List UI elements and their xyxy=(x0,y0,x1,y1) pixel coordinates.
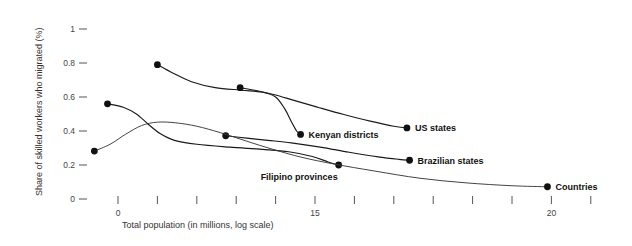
y-tick-label: 1 xyxy=(70,24,75,34)
x-tick-label: 0 xyxy=(116,208,121,218)
series-end-marker xyxy=(297,131,304,138)
series-label-filipino-provinces: Filipino provinces xyxy=(261,172,338,182)
x-tick-label: 20 xyxy=(547,208,557,218)
x-axis-title: Total population (in millions, log scale… xyxy=(122,220,274,230)
series-line xyxy=(240,88,407,128)
series-us-states xyxy=(237,84,411,131)
y-axis-title: Share of skilled workers who migrated (%… xyxy=(34,27,44,196)
series-layer xyxy=(91,61,551,190)
series-label-kenyan-districts: Kenyan districts xyxy=(309,130,379,140)
y-tick-label: 0.6 xyxy=(63,92,75,102)
series-line xyxy=(157,65,300,135)
y-tick-label: 0.2 xyxy=(63,160,75,170)
series-label-brazilian-states: Brazilian states xyxy=(418,156,484,166)
series-end-marker xyxy=(544,183,551,190)
series-start-marker xyxy=(91,148,98,155)
line-chart-svg: 00.20.40.60.81 01520 Kenyan districtsUS … xyxy=(0,0,632,246)
series-kenyan-districts xyxy=(154,61,304,138)
series-label-us-states: US states xyxy=(415,123,456,133)
y-tick-label: 0.4 xyxy=(63,126,75,136)
series-end-marker xyxy=(404,125,411,132)
series-label-countries: Countries xyxy=(555,182,597,192)
series-start-marker xyxy=(154,61,161,68)
y-tick-label: 0.8 xyxy=(63,58,75,68)
x-tick-label: 15 xyxy=(310,208,320,218)
y-tick-label: 0 xyxy=(70,194,75,204)
series-labels-layer: Kenyan districtsUS statesFilipino provin… xyxy=(261,123,598,192)
x-axis-ticks: 01520 xyxy=(116,196,591,218)
y-axis-ticks: 00.20.40.60.81 xyxy=(63,24,87,204)
series-start-marker xyxy=(104,100,111,107)
series-start-marker xyxy=(237,84,244,91)
chart-container: 00.20.40.60.81 01520 Kenyan districtsUS … xyxy=(0,0,632,246)
series-end-marker xyxy=(406,157,413,164)
